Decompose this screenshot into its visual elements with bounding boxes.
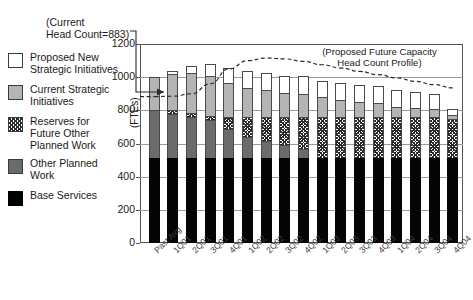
legend-label-line: Planned Work [30,140,96,152]
bar-segment-lgray [373,103,384,117]
legend-swatch-base-services-icon [8,191,23,206]
legend-item-reserves-future-other-planned-work: Reserves forFuture OtherPlanned Work [8,116,136,151]
bar-past-avg [149,77,160,243]
bar-segment-white [317,81,328,98]
bar-segment-hatch [410,117,421,158]
bar-segment-black [410,158,421,243]
bar-segment-black [354,158,365,243]
bar-segment-white [354,85,365,102]
bar-segment-hatch [261,117,272,141]
current-head-count-line1: (Current [46,17,129,29]
legend-swatch-proposed-new-strategic-initiatives-icon [8,53,23,68]
bar-segment-lgray [205,76,216,117]
bar-segment-white [279,76,290,93]
legend-label-current-strategic-initiatives: Current StrategicInitiatives [30,84,109,107]
bar-segment-black [242,158,253,243]
bar-segment-lgray [149,77,160,110]
bar-segment-dgray [205,120,216,158]
chart-legend: Proposed NewStrategic InitiativesCurrent… [8,52,136,215]
bar-segment-dgray [186,117,197,158]
bar-segment-lgray [335,100,346,117]
legend-item-base-services: Base Services [8,190,136,206]
bar-segment-white [447,109,458,116]
bar-segment-lgray [391,107,402,117]
legend-label-line: Proposed New [30,52,118,64]
bar-segment-white [242,71,253,88]
bar-segment-hatch [335,117,346,158]
bar-segment-hatch [391,117,402,158]
legend-swatch-other-planned-work-icon [8,159,23,174]
bar-2q02 [261,73,272,243]
bar-segment-dgray [223,129,234,158]
bar-segment-lgray [223,83,234,117]
legend-label-line: Strategic Initiatives [30,64,118,76]
bar-segment-black [429,158,440,243]
bar-segment-lgray [410,108,421,117]
bar-1q02 [242,71,253,243]
bar-segment-dgray [261,141,272,158]
bar-segment-dgray [149,110,160,158]
current-head-count-annotation: (Current Head Count=883) [46,17,129,40]
legend-item-other-planned-work: Other PlannedWork [8,158,136,181]
bar-segment-white [335,83,346,100]
bar-segment-white [373,86,384,103]
bar-segment-black [373,158,384,243]
bar-2q04 [410,92,421,243]
bar-segment-black [261,158,272,243]
bar-1q01 [167,71,178,243]
bar-segment-lgray [186,73,197,113]
bar-segment-hatch [354,117,365,158]
bar-segment-white [205,64,216,76]
bar-segment-lgray [167,74,178,110]
legend-label-line: Base Services [30,190,97,202]
bar-segment-black [279,158,290,243]
bar-segment-dgray [279,145,290,158]
bar-3q04 [429,94,440,243]
legend-label-base-services: Base Services [30,190,97,202]
bar-2q03 [335,83,346,243]
bar-1q03 [317,81,328,243]
bar-3q01 [205,64,216,243]
legend-label-line: Work [30,170,98,182]
legend-item-current-strategic-initiatives: Current StrategicInitiatives [8,84,136,107]
bar-segment-white [186,66,197,73]
legend-label-proposed-new-strategic-initiatives: Proposed NewStrategic Initiatives [30,52,118,75]
bar-segment-dgray [298,149,309,158]
bar-segment-white [391,90,402,107]
capacity-profile-annotation: (Proposed Future Capacity Head Count Pro… [302,46,457,68]
bar-segment-dgray [242,137,253,159]
bar-segment-dgray [167,114,178,159]
bar-4q01 [223,68,234,243]
bar-segment-lgray [354,102,365,117]
bar-4q03 [373,86,384,243]
bar-4q02 [298,76,309,243]
bar-segment-lgray [261,90,272,117]
bar-segment-white [298,76,309,93]
legend-label-reserves-future-other-planned-work: Reserves forFuture OtherPlanned Work [30,116,96,151]
bar-1q04 [391,90,402,243]
bar-segment-lgray [279,93,290,117]
legend-label-line: Future Other [30,128,96,140]
bar-segment-black [391,158,402,243]
bar-segment-hatch [429,117,440,158]
bar-segment-hatch [279,117,290,145]
bar-segment-hatch [373,117,384,158]
capacity-note-line2: Head Count Profile) [302,57,457,68]
bar-segment-black [223,158,234,243]
bar-segment-black [317,158,328,243]
bar-segment-black [298,158,309,243]
y-tick-label: 0 [101,236,135,248]
bar-segment-black [186,158,197,243]
bar-3q03 [354,85,365,243]
bar-segment-white [261,73,272,90]
bar-segment-lgray [317,97,328,117]
y-tick-mark [136,243,140,244]
legend-label-line: Initiatives [30,96,109,108]
bar-segment-hatch [298,117,309,149]
bar-4q04 [447,109,458,243]
bar-segment-hatch [242,117,253,137]
bar-segment-lgray [242,88,253,117]
bar-segment-hatch [317,117,328,158]
bar-segment-white [410,92,421,108]
legend-swatch-current-strategic-initiatives-icon [8,85,23,100]
